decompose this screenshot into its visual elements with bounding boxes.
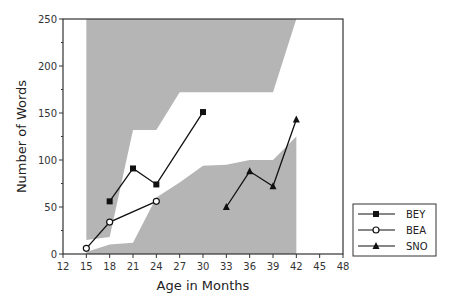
data-point-bea: [153, 198, 159, 204]
data-point-bey: [107, 198, 113, 204]
data-point-bey: [200, 109, 206, 115]
data-point-sno: [293, 116, 300, 123]
y-tick-label: 100: [38, 155, 57, 166]
x-tick-label: 21: [127, 261, 140, 272]
x-tick-label: 33: [220, 261, 233, 272]
x-tick-label: 24: [150, 261, 163, 272]
y-tick-label: 0: [51, 249, 57, 260]
x-tick-label: 30: [197, 261, 210, 272]
data-point-bea: [107, 219, 113, 225]
legend-label: BEA: [406, 225, 426, 236]
x-tick-label: 36: [243, 261, 256, 272]
x-tick-label: 18: [103, 261, 116, 272]
x-tick-label: 39: [267, 261, 280, 272]
y-axis-title: Number of Words: [14, 80, 29, 193]
legend-marker: [373, 211, 379, 217]
x-tick-label: 45: [313, 261, 326, 272]
data-point-bea: [83, 245, 89, 251]
y-axis: 050100150200250: [38, 14, 63, 260]
x-tick-label: 42: [290, 261, 303, 272]
data-point-bey: [130, 165, 136, 171]
legend-marker: [373, 227, 379, 233]
x-tick-label: 12: [57, 261, 70, 272]
x-tick-label: 48: [337, 261, 350, 272]
y-tick-label: 150: [38, 108, 57, 119]
x-tick-label: 15: [80, 261, 93, 272]
chart: 050100150200250 121518212427303336394245…: [0, 0, 455, 306]
legend: BEYBEASNO: [353, 204, 436, 256]
legend-label: BEY: [406, 209, 426, 220]
data-point-bey: [153, 181, 159, 187]
y-tick-label: 250: [38, 14, 57, 25]
x-axis-title: Age in Months: [157, 278, 250, 293]
y-tick-label: 200: [38, 61, 57, 72]
x-tick-label: 27: [173, 261, 186, 272]
x-axis: 12151821242730333639424548: [57, 254, 350, 272]
legend-label: SNO: [406, 241, 428, 252]
y-tick-label: 50: [44, 202, 57, 213]
